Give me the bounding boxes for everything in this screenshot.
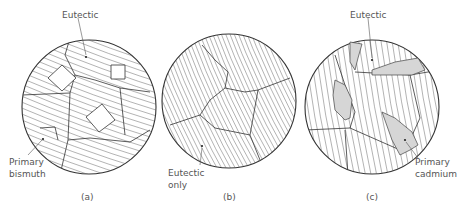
microstructure-figure: Eutectic Primary bismuth (a) Eutectic on… <box>0 0 460 212</box>
panel-a-circle <box>22 40 156 174</box>
leader-dot <box>85 56 87 58</box>
panel-a: Eutectic Primary bismuth (a) <box>0 10 183 202</box>
leader-dot <box>201 145 203 147</box>
bismuth-crystal <box>111 65 125 79</box>
label-primary: Primary <box>415 157 450 167</box>
label-only: only <box>168 180 188 190</box>
panel-c: Eutectic Primary cadmium (c) <box>293 10 457 202</box>
label-cadmium: cadmium <box>415 169 457 179</box>
label-bismuth: bismuth <box>9 169 46 179</box>
label-eutectic: Eutectic <box>350 10 386 20</box>
caption-c: (c) <box>366 192 378 202</box>
panel-b: Eutectic only (b) <box>134 3 324 202</box>
label-primary: Primary <box>9 157 44 167</box>
leader-dot <box>42 138 44 140</box>
leader-dot <box>404 139 406 141</box>
label-eutectic: Eutectic <box>62 10 98 20</box>
caption-b: (b) <box>223 192 236 202</box>
leader-dot <box>371 59 373 61</box>
label-eutectic: Eutectic <box>168 168 204 178</box>
caption-a: (a) <box>81 192 94 202</box>
